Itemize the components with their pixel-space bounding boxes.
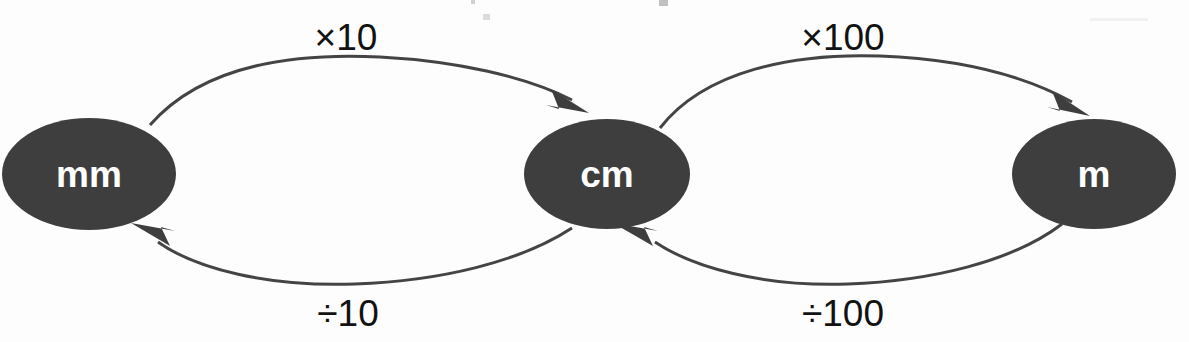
edge-label-multiply-10: ×10 xyxy=(315,17,378,58)
edge-mm-to-cm-curve xyxy=(150,56,572,125)
unit-conversion-diagram: mm cm m ×10 ÷10 ×100 ÷100 xyxy=(0,0,1189,342)
edge-m-to-cm xyxy=(613,223,1062,284)
diagram-canvas: mm cm m ×10 ÷10 ×100 ÷100 xyxy=(0,0,1189,342)
edge-label-divide-10: ÷10 xyxy=(317,293,378,334)
node-m-label: m xyxy=(1078,154,1111,195)
node-mm-label: mm xyxy=(56,154,122,195)
edge-label-divide-100: ÷100 xyxy=(802,293,884,334)
edge-cm-to-mm-arrowhead xyxy=(131,223,175,246)
edge-mm-to-cm-arrowhead xyxy=(546,89,589,113)
edge-mm-to-cm xyxy=(150,56,589,125)
edge-cm-to-mm xyxy=(131,223,572,284)
node-mm[interactable]: mm xyxy=(2,118,176,230)
edge-m-to-cm-curve xyxy=(655,224,1062,284)
edge-cm-to-m-arrowhead xyxy=(1047,91,1090,116)
edge-cm-to-mm-curve xyxy=(158,228,572,284)
edge-cm-to-m-curve xyxy=(660,56,1072,128)
edge-cm-to-m xyxy=(660,56,1090,128)
edge-label-multiply-100: ×100 xyxy=(801,17,884,58)
node-cm[interactable]: cm xyxy=(524,119,690,229)
node-cm-label: cm xyxy=(580,154,633,195)
node-m[interactable]: m xyxy=(1012,119,1176,229)
